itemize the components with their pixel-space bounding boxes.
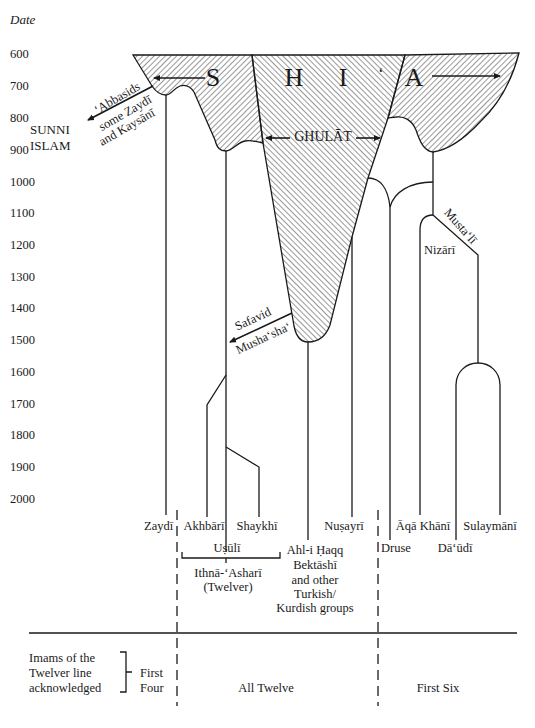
nizari-label: Nizārī	[424, 243, 455, 257]
tick-1700: 1700	[10, 397, 35, 412]
imams-label-line1: Imams of the	[29, 651, 95, 665]
nusayri-label: Nuṣayrī	[324, 519, 364, 533]
first-four-line2: Four	[140, 681, 164, 695]
shia-letter-i: I	[339, 63, 348, 93]
druse-arc-left	[368, 178, 390, 207]
daudi-sulaymani-arch	[456, 363, 500, 540]
ghulat-wedge	[252, 55, 405, 342]
shaykhi-line	[226, 447, 259, 517]
twelver-label-line2: (Twelver)	[203, 580, 252, 594]
axis-title: Date	[10, 13, 35, 27]
tick-1100: 1100	[10, 206, 35, 221]
shia-sects-diagram	[0, 0, 535, 728]
tick-800: 800	[10, 111, 29, 126]
nizari-line	[420, 215, 433, 515]
bektashi-label: Bektāshī	[293, 558, 337, 572]
tick-1500: 1500	[10, 333, 35, 348]
imams-label-line2: Twelver line	[29, 666, 92, 680]
sunni-label-line2: ISLAM	[30, 139, 70, 153]
tick-1800: 1800	[10, 428, 35, 443]
tick-600: 600	[10, 47, 29, 62]
ahl-i-haqq-label: Ahl-i Ḥaqq	[287, 543, 344, 557]
kurdish-groups-label: Kurdish groups	[276, 601, 353, 615]
tick-700: 700	[10, 79, 29, 94]
imams-label-line3: acknowledged	[29, 681, 101, 695]
tick-1300: 1300	[10, 270, 35, 285]
shia-letter-ayn: ‘	[378, 65, 383, 83]
sulaymani-label: Sulaymānī	[463, 519, 516, 533]
shia-letter-a: A	[405, 63, 424, 93]
and-other-label: and other	[292, 573, 339, 587]
tick-1200: 1200	[10, 238, 35, 253]
shaykhi-label: Shaykhī	[237, 519, 278, 533]
turkish-label: Turkish/	[294, 587, 336, 601]
tick-900: 900	[10, 143, 29, 158]
tick-1000: 1000	[10, 175, 35, 190]
usuli-label: Uṣūlī	[213, 541, 240, 555]
all-twelve-label: All Twelve	[238, 681, 293, 695]
shia-letter-s: S	[206, 63, 220, 93]
sunni-label-line1: SUNNI	[30, 123, 70, 137]
akhbari-label: Akhbārī	[184, 519, 225, 533]
first-four-line1: First	[140, 666, 163, 680]
aqa-khani-label: Āqā Khānī	[396, 519, 451, 533]
akhbari-line	[207, 375, 226, 517]
tick-1400: 1400	[10, 301, 35, 316]
daudi-label: Dā‘ūdī	[438, 541, 473, 555]
tick-1600: 1600	[10, 365, 35, 380]
tick-1900: 1900	[10, 460, 35, 475]
shia-letter-h: H	[285, 63, 304, 93]
zaydi-label: Zaydī	[144, 519, 173, 533]
druse-label: Druse	[381, 541, 411, 555]
imams-bracket	[120, 652, 132, 692]
ghulat-label: GHULĀT	[294, 130, 352, 144]
twelver-label-line1: Ithnā-‘Asharī	[194, 566, 261, 580]
druse-arc-right	[390, 182, 433, 207]
tick-2000: 2000	[10, 492, 35, 507]
first-six-label: First Six	[417, 681, 460, 695]
